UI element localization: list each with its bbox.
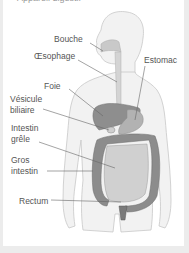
label-vesicule-biliaire-2: biliaire xyxy=(10,105,35,115)
label-intestin-grele-2: grêle xyxy=(11,134,30,144)
label-bouche: Bouche xyxy=(54,34,83,44)
diagram-card: Appareil digestif xyxy=(3,0,184,246)
label-gros-intestin-1: Gros xyxy=(11,155,29,165)
small-intestine xyxy=(104,144,148,202)
label-gros-intestin-2: intestin xyxy=(11,166,38,176)
mouth-region xyxy=(101,40,121,52)
label-foie: Foie xyxy=(44,81,61,91)
label-rectum: Rectum xyxy=(19,196,48,206)
label-oesophage: Œsophage xyxy=(34,51,75,61)
label-vesicule-biliaire-1: Vésicule xyxy=(10,94,42,104)
label-estomac: Estomac xyxy=(144,55,177,65)
label-intestin-grele-1: Intestin xyxy=(11,123,38,133)
